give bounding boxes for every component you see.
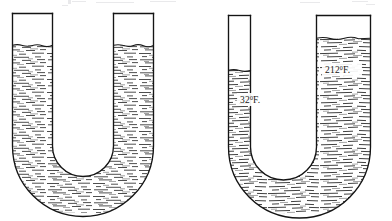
temperature-label-hot-unit: F. — [343, 65, 350, 75]
utube-figure-canvas: 320F. 2120F. — [0, 0, 392, 221]
temperature-label-cold-unit: F. — [253, 95, 260, 105]
temperature-label-cold-group: 320F. — [237, 93, 271, 106]
utube-diagram: 320F. 2120F. — [0, 0, 392, 221]
temperature-label-hot: 2120F. — [325, 65, 350, 76]
temperature-label-hot-value: 212 — [325, 65, 340, 75]
scan-noise-artifacts — [62, 0, 375, 6]
temperature-label-hot-group: 2120F. — [322, 63, 362, 76]
temperature-label-cold-value: 32 — [240, 95, 250, 105]
